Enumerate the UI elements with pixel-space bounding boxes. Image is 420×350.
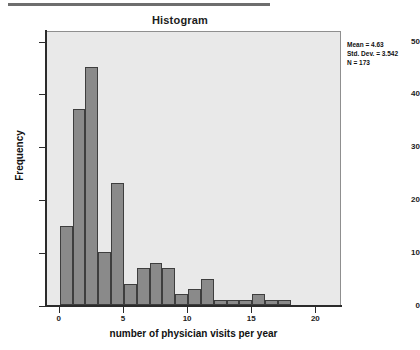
- mean-value: Mean = 4.63: [347, 40, 398, 49]
- y-axis-tick: [39, 253, 46, 254]
- histogram-bar: [111, 183, 124, 305]
- header-rule: [8, 3, 270, 6]
- histogram-figure: Histogram THE ROLE OF THE GROUP OF THE G…: [0, 0, 420, 350]
- x-axis-label: number of physician visits per year: [46, 328, 341, 339]
- x-axis-tick: [315, 306, 316, 313]
- histogram-bar: [162, 268, 175, 305]
- x-axis-tick: [187, 306, 188, 313]
- histogram-bar: [175, 294, 188, 305]
- x-axis-tick: [251, 306, 252, 313]
- y-axis-tick-label: 0: [386, 301, 420, 310]
- histogram-bar: [252, 294, 265, 305]
- y-axis-tick: [39, 94, 46, 95]
- histogram-bar: [137, 268, 150, 305]
- x-axis-tick-label: 20: [303, 314, 327, 323]
- y-axis-tick: [39, 42, 46, 43]
- statistics-annotation: Mean = 4.63 Std. Dev. = 3.542 N = 173: [347, 40, 398, 68]
- chart-title: Histogram: [0, 14, 360, 26]
- bar-series: [47, 32, 340, 305]
- y-axis-tick-label: 20: [386, 195, 420, 204]
- histogram-bar: [60, 226, 73, 305]
- y-axis-line: [45, 30, 47, 307]
- y-axis-tick: [39, 147, 46, 148]
- histogram-bar: [201, 279, 214, 305]
- x-axis-tick-label: 5: [111, 314, 135, 323]
- x-axis-line: [45, 305, 342, 307]
- x-axis-tick: [59, 306, 60, 313]
- histogram-bar: [150, 263, 163, 305]
- histogram-bar: [85, 67, 98, 305]
- x-axis-tick-label: 0: [47, 314, 71, 323]
- y-axis-tick-label: 30: [386, 142, 420, 151]
- plot-area: [46, 31, 341, 306]
- histogram-bar: [73, 109, 86, 305]
- x-axis-tick: [123, 306, 124, 313]
- x-axis-tick-label: 10: [175, 314, 199, 323]
- histogram-bar: [188, 289, 201, 305]
- histogram-bar: [124, 284, 137, 305]
- y-axis-tick-label: 40: [386, 89, 420, 98]
- y-axis-tick-label: 10: [386, 248, 420, 257]
- histogram-bar: [98, 252, 111, 305]
- y-axis-tick: [39, 200, 46, 201]
- y-axis-tick: [39, 306, 46, 307]
- x-axis-tick-label: 15: [239, 314, 263, 323]
- y-axis-label: Frequency: [14, 101, 25, 211]
- n-value: N = 173: [347, 58, 398, 67]
- std-dev-value: Std. Dev. = 3.542: [347, 49, 398, 58]
